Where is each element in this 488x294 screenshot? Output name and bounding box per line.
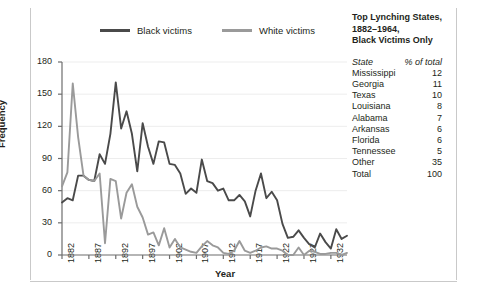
chart-canvas bbox=[0, 0, 488, 294]
series-line-black-victims bbox=[62, 82, 347, 248]
chart-plot-area: Frequency Year 0306090120150180188218871… bbox=[0, 0, 488, 294]
lynching-figure: Black victims White victims Top Lynching… bbox=[0, 0, 488, 294]
